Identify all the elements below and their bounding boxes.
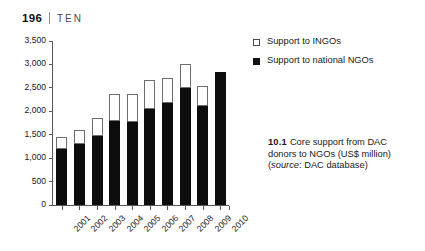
plot-area xyxy=(53,41,229,205)
x-axis-label-2005: 2005 xyxy=(142,213,163,234)
running-head: 196 TEN xyxy=(22,10,83,26)
legend-item[interactable]: Support to INGOs xyxy=(253,36,421,48)
y-tick-label: 1,500 xyxy=(24,129,46,140)
y-tick-label: 3,500 xyxy=(24,35,46,46)
bar-segment-ingos[interactable] xyxy=(74,130,85,145)
x-tick-mark xyxy=(132,206,133,210)
bar-group[interactable] xyxy=(56,41,67,205)
legend-item-label: Support to national NGOs xyxy=(267,55,373,67)
y-tick-mark xyxy=(49,158,53,159)
x-axis-label-2010: 2010 xyxy=(230,213,251,234)
bar-segment-national-ngos[interactable] xyxy=(215,72,226,205)
bar-group[interactable] xyxy=(197,41,208,205)
bar-group[interactable] xyxy=(74,41,85,205)
bar-segment-national-ngos[interactable] xyxy=(162,103,173,205)
x-tick-mark xyxy=(185,206,186,210)
bar-segment-ingos[interactable] xyxy=(127,94,138,122)
x-tick-mark xyxy=(97,206,98,210)
y-tick-mark xyxy=(49,41,53,42)
bar-group[interactable] xyxy=(109,41,120,205)
x-tick-mark xyxy=(115,206,116,210)
bar-segment-ingos[interactable] xyxy=(162,78,173,103)
caption-source-value: : DAC database) xyxy=(299,160,368,170)
caption-source: (source: DAC database) xyxy=(268,160,368,170)
x-axis-label-2004: 2004 xyxy=(124,213,145,234)
bar-segment-national-ngos[interactable] xyxy=(74,144,85,205)
x-axis-label-2009: 2009 xyxy=(212,213,233,234)
bar-segment-national-ngos[interactable] xyxy=(144,109,155,205)
bar-group[interactable] xyxy=(215,41,226,205)
running-head-divider xyxy=(49,12,50,24)
x-tick-mark xyxy=(167,206,168,210)
y-tick-mark xyxy=(49,181,53,182)
bar-segment-national-ngos[interactable] xyxy=(127,122,138,205)
y-tick-mark xyxy=(49,87,53,88)
x-tick-mark xyxy=(229,206,230,210)
page-folio: 196 xyxy=(22,12,42,24)
bar-segment-ingos[interactable] xyxy=(180,64,191,87)
bar-segment-national-ngos[interactable] xyxy=(109,121,120,205)
bar-segment-ingos[interactable] xyxy=(144,80,155,110)
solid-square-icon xyxy=(253,58,260,65)
chart-legend: Support to INGOsSupport to national NGOs xyxy=(253,36,421,73)
chapter-label: TEN xyxy=(57,13,83,24)
bar-group[interactable] xyxy=(127,41,138,205)
figure-caption: 10.1Core support from DAC donors to NGOs… xyxy=(268,137,418,172)
x-tick-mark xyxy=(220,206,221,210)
y-tick-label: 3,000 xyxy=(24,58,46,69)
y-tick-label: 1,000 xyxy=(24,152,46,163)
x-axis-label-2006: 2006 xyxy=(159,213,180,234)
x-tick-mark xyxy=(203,206,204,210)
bar-segment-ingos[interactable] xyxy=(109,94,120,121)
bar-segment-ingos[interactable] xyxy=(56,137,67,149)
legend-item[interactable]: Support to national NGOs xyxy=(253,55,421,67)
x-axis-label-2007: 2007 xyxy=(177,213,198,234)
x-axis-label-2008: 2008 xyxy=(195,213,216,234)
bar-segment-ingos[interactable] xyxy=(92,118,103,135)
y-tick-label: 2,500 xyxy=(24,82,46,93)
figure-10-1: 05001,0001,5002,0002,5003,0003,500200120… xyxy=(0,30,240,251)
x-axis-label-2002: 2002 xyxy=(89,213,110,234)
bar-segment-national-ngos[interactable] xyxy=(56,149,67,205)
bar-segment-national-ngos[interactable] xyxy=(197,106,208,205)
bar-group[interactable] xyxy=(180,41,191,205)
hollow-square-icon xyxy=(253,39,260,46)
x-axis-label-2003: 2003 xyxy=(107,213,128,234)
bar-segment-ingos[interactable] xyxy=(197,86,208,106)
y-tick-label: 500 xyxy=(32,176,46,187)
legend-item-label: Support to INGOs xyxy=(267,36,341,48)
y-tick-mark xyxy=(49,134,53,135)
bar-segment-national-ngos[interactable] xyxy=(92,136,103,205)
bar-group[interactable] xyxy=(162,41,173,205)
y-tick-mark xyxy=(49,64,53,65)
y-tick-mark xyxy=(49,205,53,206)
y-tick-mark xyxy=(49,111,53,112)
x-axis-label-2001: 2001 xyxy=(71,213,92,234)
bar-segment-national-ngos[interactable] xyxy=(180,88,191,205)
y-tick-label: 2,000 xyxy=(24,105,46,116)
x-tick-mark xyxy=(79,206,80,210)
bar-group[interactable] xyxy=(144,41,155,205)
x-tick-mark xyxy=(150,206,151,210)
x-tick-mark xyxy=(62,206,63,210)
caption-source-label: source xyxy=(271,160,299,170)
caption-number: 10.1 xyxy=(268,137,287,147)
bar-group[interactable] xyxy=(92,41,103,205)
y-tick-label: 0 xyxy=(41,199,46,210)
